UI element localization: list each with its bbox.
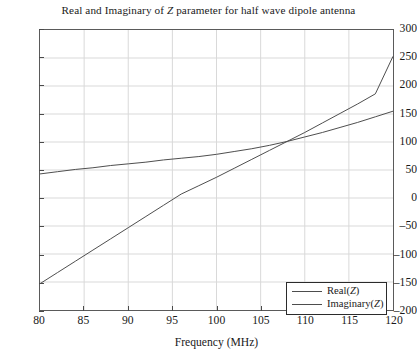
x-tick-label: 85 — [63, 315, 103, 327]
legend-label: Real(Z) — [327, 286, 359, 297]
legend-line-swatch — [292, 291, 322, 292]
chart-figure: Real and Imaginary of Z parameter for ha… — [0, 0, 417, 364]
legend-item: Imaginary(Z) — [290, 298, 383, 311]
legend: Real(Z)Imaginary(Z) — [286, 282, 387, 315]
y-tick-mark — [39, 57, 44, 58]
y-tick-mark — [39, 283, 44, 284]
x-tick-mark — [83, 306, 84, 311]
x-axis-label: Frequency (MHz) — [39, 336, 394, 349]
y-tick-label: –100 — [383, 249, 417, 261]
y-tick-label: 50 — [383, 164, 417, 176]
x-tick-mark — [217, 306, 218, 311]
plot-area — [39, 29, 394, 311]
y-tick-label: 200 — [383, 79, 417, 91]
y-tick-label: –150 — [383, 277, 417, 289]
y-tick-label: 150 — [383, 108, 417, 120]
x-tick-label: 115 — [330, 315, 370, 327]
y-tick-label: 100 — [383, 136, 417, 148]
legend-item: Real(Z) — [290, 285, 383, 298]
x-tick-label: 90 — [108, 315, 148, 327]
x-tick-mark — [261, 306, 262, 311]
y-tick-mark — [39, 114, 44, 115]
x-tick-label: 105 — [241, 315, 281, 327]
chart-title: Real and Imaginary of Z parameter for ha… — [0, 4, 417, 16]
x-tick-label: 120 — [374, 315, 414, 327]
legend-label: Imaginary(Z) — [327, 299, 384, 310]
x-tick-label: 100 — [197, 315, 237, 327]
x-tick-mark — [128, 306, 129, 311]
y-tick-label: –50 — [383, 220, 417, 232]
series-line-0 — [40, 111, 393, 174]
series-line-1 — [40, 56, 393, 283]
y-tick-mark — [39, 311, 44, 312]
x-tick-label: 95 — [152, 315, 192, 327]
y-tick-label: 300 — [383, 23, 417, 35]
legend-line-swatch — [292, 304, 322, 305]
y-tick-mark — [39, 85, 44, 86]
y-tick-mark — [39, 29, 44, 30]
y-tick-label: 250 — [383, 51, 417, 63]
y-tick-mark — [39, 198, 44, 199]
y-tick-mark — [39, 255, 44, 256]
series-layer — [40, 30, 393, 310]
x-tick-label: 110 — [285, 315, 325, 327]
y-tick-label: 0 — [383, 192, 417, 204]
y-tick-mark — [39, 142, 44, 143]
x-tick-label: 80 — [19, 315, 59, 327]
y-tick-mark — [39, 226, 44, 227]
x-tick-mark — [172, 306, 173, 311]
y-tick-mark — [39, 170, 44, 171]
